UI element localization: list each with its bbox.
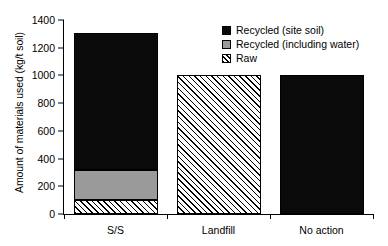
y-tick-mark bbox=[58, 47, 64, 48]
y-tick-label: 600 bbox=[37, 125, 55, 136]
bar-segment bbox=[74, 33, 158, 170]
y-tick-label: 800 bbox=[37, 98, 55, 109]
bar-group bbox=[74, 32, 158, 214]
bar-group bbox=[177, 75, 261, 214]
y-tick-mark bbox=[58, 186, 64, 187]
legend-item-label: Raw bbox=[236, 53, 257, 64]
legend-swatch-icon bbox=[222, 54, 231, 63]
x-tick-mark bbox=[373, 214, 374, 219]
x-tick-mark bbox=[270, 214, 271, 219]
y-tick-label: 0 bbox=[49, 209, 55, 220]
bar-segment bbox=[74, 170, 158, 200]
plot-area: 0200400600800100012001400 S/SLandfillNo … bbox=[63, 20, 373, 215]
y-axis-title: Amount of materials used (kg/t soil) bbox=[14, 8, 25, 218]
y-tick-mark bbox=[58, 103, 64, 104]
chart-figure: Amount of materials used (kg/t soil) 020… bbox=[0, 0, 388, 246]
bar-segment bbox=[280, 75, 364, 214]
x-tick-label: S/S bbox=[107, 225, 124, 236]
legend-item-label: Recycled (site soil) bbox=[236, 25, 324, 36]
bar-segment bbox=[74, 200, 158, 214]
legend-item: Recycled (site soil) bbox=[222, 23, 359, 37]
bar-group bbox=[280, 75, 364, 214]
y-tick-mark bbox=[58, 130, 64, 131]
legend-item: Recycled (including water) bbox=[222, 37, 359, 51]
y-tick-label: 1200 bbox=[32, 42, 55, 53]
y-tick-mark bbox=[58, 20, 64, 21]
legend-swatch-icon bbox=[222, 40, 231, 49]
x-tick-mark bbox=[167, 214, 168, 219]
legend-item: Raw bbox=[222, 51, 359, 65]
y-tick-label: 1000 bbox=[32, 70, 55, 81]
y-tick-label: 200 bbox=[37, 181, 55, 192]
y-tick-mark bbox=[58, 75, 64, 76]
y-tick-label: 1400 bbox=[32, 15, 55, 26]
y-tick-mark bbox=[58, 158, 64, 159]
legend-item-label: Recycled (including water) bbox=[236, 39, 359, 50]
legend-swatch-icon bbox=[222, 26, 231, 35]
chart-legend: Recycled (site soil)Recycled (including … bbox=[222, 23, 359, 65]
bar-segment bbox=[177, 75, 261, 214]
y-tick-label: 400 bbox=[37, 153, 55, 164]
x-tick-label: No action bbox=[299, 225, 343, 236]
x-tick-label: Landfill bbox=[202, 225, 235, 236]
x-tick-mark bbox=[64, 214, 65, 219]
